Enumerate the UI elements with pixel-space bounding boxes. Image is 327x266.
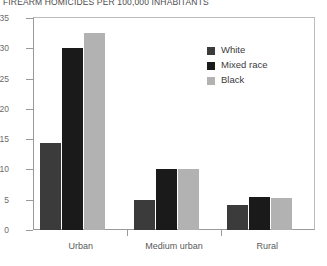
- y-tick-mark: [26, 200, 33, 201]
- y-tick-label: 0: [0, 225, 9, 235]
- x-separator-tick: [221, 230, 222, 236]
- x-category-label: Rural: [257, 241, 279, 251]
- bar-chart: FIREARM HOMICIDES PER 100,000 INHABITANT…: [0, 0, 327, 266]
- y-tick-label: 10: [0, 164, 9, 174]
- bar: [271, 198, 292, 230]
- bar: [156, 169, 177, 230]
- x-separator-tick: [127, 230, 128, 236]
- y-tick-mark: [26, 48, 33, 49]
- y-tick-label: 20: [0, 104, 9, 114]
- bar: [227, 205, 248, 230]
- y-tick-mark: [26, 79, 33, 80]
- x-category-label: Medium urban: [145, 241, 203, 251]
- y-tick-mark: [26, 139, 33, 140]
- legend-label: White: [221, 44, 245, 55]
- legend-label: Mixed race: [221, 59, 267, 70]
- y-tick-label: 30: [0, 43, 9, 53]
- legend-swatch-icon: [207, 77, 215, 85]
- y-tick-mark: [26, 230, 33, 231]
- x-category-label: Urban: [68, 241, 93, 251]
- chart-title: FIREARM HOMICIDES PER 100,000 INHABITANT…: [3, 0, 209, 7]
- legend-label: Black: [221, 74, 244, 85]
- y-tick-mark: [26, 169, 33, 170]
- bars-layer: [34, 18, 314, 230]
- y-tick-label: 25: [0, 74, 9, 84]
- y-tick-label: 5: [0, 195, 9, 205]
- bar: [178, 169, 199, 230]
- bar: [62, 48, 83, 230]
- y-tick-mark: [26, 109, 33, 110]
- bar: [40, 143, 61, 230]
- y-tick-label: 15: [0, 134, 9, 144]
- bar: [134, 200, 155, 230]
- bar: [249, 197, 270, 230]
- legend-swatch-icon: [207, 47, 215, 55]
- y-tick-label: 35: [0, 13, 9, 23]
- y-tick-mark: [26, 18, 33, 19]
- legend-swatch-icon: [207, 62, 215, 70]
- bar: [84, 33, 105, 230]
